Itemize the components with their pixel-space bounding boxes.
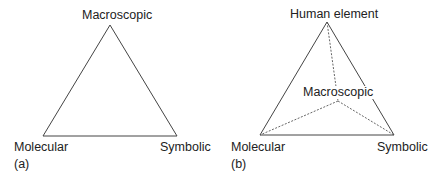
triangle-a (43, 25, 177, 136)
caption-a: (a) (14, 158, 29, 171)
caption-b: (b) (231, 158, 246, 171)
label-a-bottom-left: Molecular (14, 141, 68, 154)
label-a-bottom-right: Symbolic (160, 141, 211, 154)
triangle-b-outer (260, 22, 394, 135)
label-a-top: Macroscopic (82, 9, 152, 22)
dashed-edge-center-to-molecular (260, 101, 338, 135)
label-b-center: Macroscopic (303, 86, 373, 99)
label-b-bottom-left: Molecular (231, 141, 285, 154)
label-b-top: Human element (290, 8, 378, 21)
label-b-bottom-right: Symbolic (377, 141, 428, 154)
dashed-edge-center-to-symbolic (338, 101, 394, 135)
